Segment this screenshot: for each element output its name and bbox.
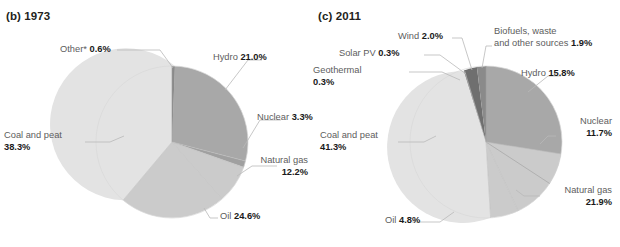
label-1973-other-value: 0.6%: [89, 44, 110, 54]
label-1973-natural-gas[interactable]: Natural gas 12.2%: [218, 155, 308, 178]
label-2011-natural-gas[interactable]: Natural gas 21.9%: [528, 185, 612, 208]
label-1973-hydro-name: Hydro: [213, 52, 238, 62]
label-2011-coal[interactable]: Coal and peat 41.3%: [320, 130, 378, 153]
label-2011-geothermal[interactable]: Geothermal 0.3%: [313, 65, 362, 88]
label-1973-hydro-value: 21.0%: [240, 52, 266, 62]
label-1973-coal-value: 38.3%: [4, 142, 30, 152]
label-2011-coal-value: 41.3%: [320, 142, 346, 152]
label-2011-oil[interactable]: Oil 4.8%: [385, 215, 420, 227]
label-1973-nuclear[interactable]: Nuclear 3.3%: [257, 112, 313, 124]
label-1973-nuclear-value: 3.3%: [292, 112, 313, 122]
label-2011-hydro-value: 15.8%: [548, 68, 574, 78]
label-1973-nuclear-name: Nuclear: [257, 112, 289, 122]
label-2011-natural-gas-name: Natural gas: [564, 185, 612, 195]
label-2011-nuclear[interactable]: Nuclear 11.7%: [538, 116, 612, 139]
panel-title-2011: (c) 2011: [318, 10, 361, 22]
label-2011-solar-value: 0.3%: [378, 48, 399, 58]
label-2011-coal-name: Coal and peat: [320, 130, 378, 140]
label-2011-oil-name: Oil: [385, 215, 396, 225]
label-2011-wind-name: Wind: [398, 31, 419, 41]
label-1973-coal[interactable]: Coal and peat 38.3%: [4, 130, 62, 153]
label-2011-solar[interactable]: Solar PV 0.3%: [339, 48, 400, 60]
label-1973-oil-name: Oil: [220, 211, 231, 221]
label-1973-other-name: Other*: [60, 44, 87, 54]
label-1973-oil[interactable]: Oil 24.6%: [220, 211, 260, 223]
label-1973-hydro[interactable]: Hydro 21.0%: [213, 52, 267, 64]
label-2011-natural-gas-value: 21.9%: [586, 197, 612, 207]
label-2011-biofuels-value: 1.9%: [571, 38, 592, 48]
label-2011-nuclear-name: Nuclear: [580, 116, 612, 126]
panel-title-1973: (b) 1973: [6, 10, 50, 22]
label-2011-nuclear-value: 11.7%: [586, 128, 612, 138]
label-1973-oil-value: 24.6%: [234, 211, 260, 221]
label-2011-oil-value: 4.8%: [399, 215, 420, 225]
label-2011-biofuels-name2: and other sources: [494, 38, 568, 48]
label-2011-hydro[interactable]: Hydro 15.8%: [521, 68, 575, 80]
label-1973-coal-name: Coal and peat: [4, 130, 62, 140]
label-2011-hydro-name: Hydro: [521, 68, 546, 78]
label-2011-biofuels-name: Biofuels, waste: [494, 26, 557, 36]
label-1973-natural-gas-value: 12.2%: [282, 167, 308, 177]
label-1973-other[interactable]: Other* 0.6%: [60, 44, 111, 56]
label-2011-geothermal-value: 0.3%: [313, 77, 334, 87]
label-2011-biofuels[interactable]: Biofuels, waste and other sources 1.9%: [494, 26, 592, 49]
label-1973-natural-gas-name: Natural gas: [260, 155, 308, 165]
label-2011-wind-value: 2.0%: [422, 31, 443, 41]
label-2011-geothermal-name: Geothermal: [313, 65, 362, 75]
label-2011-solar-name: Solar PV: [339, 48, 376, 58]
label-2011-wind[interactable]: Wind 2.0%: [398, 31, 443, 43]
